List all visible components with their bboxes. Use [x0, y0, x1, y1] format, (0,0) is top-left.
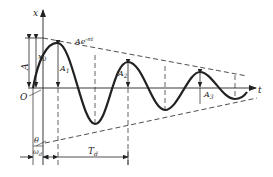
damped-response-curve: [33, 43, 247, 124]
origin-leader: [29, 90, 41, 96]
theta-label: θ: [34, 136, 39, 145]
period-label: Td: [88, 146, 98, 157]
x-axis-label: x: [33, 8, 38, 18]
amplitude-label: A: [20, 63, 30, 71]
x0-label: x0: [38, 52, 47, 62]
a1-label: A1: [59, 64, 70, 74]
envelope-label: Ae-nt: [74, 36, 94, 46]
omega-label: ωd: [33, 148, 42, 157]
lower-envelope: [45, 98, 257, 143]
a2-label: A2: [117, 69, 128, 79]
t-axis-label: t: [258, 85, 262, 95]
origin-label: O: [20, 92, 28, 102]
a3-label: A3: [203, 90, 214, 100]
damped-vibration-diagram: x t O A x0 Ae-nt A1 A2 A3 θ ωd Td: [0, 0, 273, 177]
